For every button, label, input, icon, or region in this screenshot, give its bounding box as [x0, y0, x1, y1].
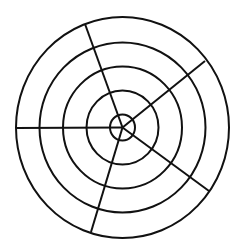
spokes-group [16, 24, 209, 232]
spoke-2 [123, 61, 206, 128]
spoke-4 [91, 128, 123, 233]
spoke-3 [123, 128, 210, 192]
concentric-ring-diagram [0, 0, 241, 248]
spoke-5 [16, 128, 123, 129]
